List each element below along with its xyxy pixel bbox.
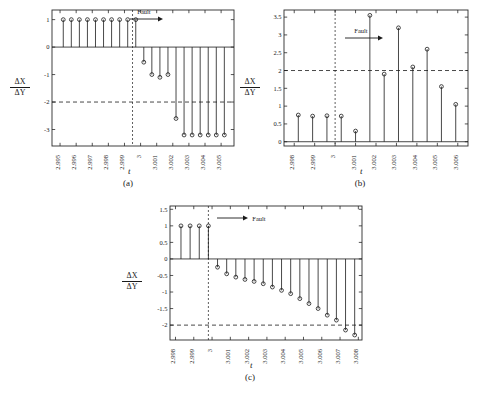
svg-text:1: 1 [46,16,49,23]
svg-text:3.001: 3.001 [151,155,158,170]
svg-text:2.997: 2.997 [86,154,93,169]
svg-text:-3: -3 [44,126,49,133]
panel-c-caption: (c) [230,372,270,382]
svg-text:3.006: 3.006 [452,154,459,169]
svg-text:3.001: 3.001 [350,155,357,170]
panel-c-xlabel: t [250,360,253,370]
svg-text:3.003: 3.003 [390,155,397,170]
svg-text:0: 0 [46,43,49,50]
svg-text:-2: -2 [44,98,49,105]
panel-a-caption: (a) [108,178,148,188]
svg-text:3.003: 3.003 [183,155,190,170]
svg-text:-1: -1 [162,288,167,295]
panel-a-ylabel-top: ΔX [10,78,30,86]
panel-b-ylabel: ΔX ΔY [240,78,260,98]
svg-text:3.006: 3.006 [316,348,323,363]
panel-c-ylabel-bottom: ΔY [122,283,142,291]
svg-text:2.996: 2.996 [70,154,77,169]
panel-b-ylabel-top: ΔX [240,78,260,86]
svg-text:3.005: 3.005 [297,349,304,364]
svg-text:2.995: 2.995 [54,155,61,170]
svg-text:0.5: 0.5 [159,239,167,246]
svg-text:2: 2 [278,67,281,74]
svg-text:3: 3 [206,349,213,352]
svg-text:3.005: 3.005 [215,155,222,170]
svg-text:2.999: 2.999 [118,155,125,170]
svg-text:1: 1 [278,102,281,109]
svg-text:3.005: 3.005 [431,155,438,170]
panel-a-ylabel: ΔX ΔY [10,78,30,98]
panel-b-ylabel-bottom: ΔY [240,89,260,97]
svg-text:3: 3 [135,155,142,158]
svg-text:3.002: 3.002 [167,155,174,170]
svg-text:-0.5: -0.5 [157,272,167,279]
panel-c-plot: 2.9982.99933.0013.0023.0033.0043.0053.00… [144,198,368,374]
panel-a-ylabel-bottom: ΔY [10,89,30,97]
panel-a-plot: 2.9952.9962.9972.9982.99933.0013.0023.00… [30,2,240,182]
svg-text:-1.5: -1.5 [157,305,167,312]
panel-b-caption: (b) [340,178,380,188]
panel-c-ylabel-top: ΔX [122,272,142,280]
svg-text:0.5: 0.5 [273,120,281,127]
panel-b: ΔX ΔY 2.9982.99933.0013.0023.0033.0043.0… [228,0,477,190]
svg-text:2.999: 2.999 [188,349,195,364]
svg-text:3.001: 3.001 [224,349,231,364]
svg-text:Fault: Fault [137,8,151,15]
svg-text:3.002: 3.002 [243,349,250,364]
panel-b-plot: 2.9982.99933.0013.0023.0033.0043.0053.00… [260,2,474,182]
svg-text:3.5: 3.5 [273,13,281,20]
panel-b-xlabel: t [360,166,363,176]
svg-text:3.003: 3.003 [261,349,268,364]
svg-text:3: 3 [278,31,281,38]
svg-text:3.002: 3.002 [370,155,377,170]
svg-text:1.5: 1.5 [273,85,281,92]
svg-text:1: 1 [164,222,167,229]
panel-c-ylabel: ΔX ΔY [122,272,142,292]
svg-text:-2: -2 [162,321,167,328]
svg-text:1.5: 1.5 [159,206,167,213]
svg-text:3: 3 [329,155,336,158]
svg-text:2.998: 2.998 [169,349,176,364]
svg-text:Fault: Fault [354,27,368,34]
svg-text:3.007: 3.007 [334,348,341,363]
svg-text:Fault: Fault [252,215,266,222]
svg-text:3.004: 3.004 [279,348,286,363]
svg-text:3.004: 3.004 [199,154,206,169]
svg-text:2.999: 2.999 [309,155,316,170]
svg-text:0: 0 [278,138,281,145]
svg-text:2.5: 2.5 [273,49,281,56]
panel-a-xlabel: t [128,166,131,176]
panel-a: ΔX ΔY 2.9952.9962.9972.9982.99933.0013.0… [0,0,240,190]
svg-text:0: 0 [164,255,167,262]
svg-text:3.004: 3.004 [411,154,418,169]
svg-text:2.998: 2.998 [102,155,109,170]
panel-c: ΔX ΔY 2.9982.99933.0013.0023.0033.0043.0… [112,196,372,395]
svg-text:2.998: 2.998 [288,155,295,170]
svg-text:-1: -1 [44,71,49,78]
svg-text:3.008: 3.008 [352,349,359,364]
